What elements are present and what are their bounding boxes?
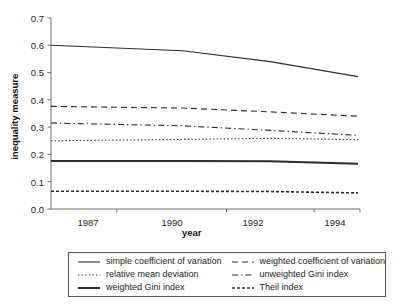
series-line	[51, 138, 358, 140]
series-line	[51, 45, 358, 76]
legend-label: simple coefficient of variation	[106, 257, 221, 266]
chart-legend: simple coefficient of variation weighted…	[68, 252, 386, 297]
legend-label: unweighted Gini index	[260, 270, 349, 279]
plot-area: 0.7 0.6 0.5 0.4 0.3 0.2 0.1 0.0 1987 199…	[0, 0, 406, 240]
legend-item-weighted-gini-index: weighted Gini index	[69, 283, 223, 293]
xtick-label: 1994	[313, 218, 357, 228]
legend-swatch-solid	[77, 257, 101, 267]
ytick-label: 0.6	[14, 41, 44, 51]
xtick-label: 1992	[231, 218, 275, 228]
series-lines	[51, 45, 358, 193]
legend-label: relative mean deviation	[106, 270, 199, 279]
series-line	[51, 106, 358, 116]
legend-swatch-dashed	[231, 257, 255, 267]
legend-label: weighted coefficient of variation	[260, 257, 385, 266]
chart-figure: 0.7 0.6 0.5 0.4 0.3 0.2 0.1 0.0 1987 199…	[0, 0, 406, 305]
series-line	[51, 161, 358, 164]
xtick-label: 1987	[66, 218, 110, 228]
ytick-label: 0.7	[14, 14, 44, 24]
legend-swatch-dashdot	[231, 270, 255, 280]
legend-label: Theil index	[260, 283, 304, 292]
series-line	[51, 123, 358, 135]
legend-item-unweighted-gini-index: unweighted Gini index	[223, 270, 385, 280]
legend-item-simple-coefficient-of-variation: simple coefficient of variation	[69, 257, 223, 267]
series-line	[51, 191, 358, 193]
legend-label: weighted Gini index	[106, 283, 185, 292]
legend-swatch-shortdash	[231, 283, 255, 293]
line-chart-canvas	[0, 0, 406, 240]
x-axis-title: year	[182, 228, 202, 238]
legend-swatch-solid-thick	[77, 283, 101, 293]
legend-swatch-dotted	[77, 270, 101, 280]
ytick-label: 0.0	[14, 205, 44, 215]
legend-item-theil-index: Theil index	[223, 283, 385, 293]
legend-item-relative-mean-deviation: relative mean deviation	[69, 270, 223, 280]
legend-item-weighted-coefficient-of-variation: weighted coefficient of variation	[223, 257, 385, 267]
y-axis-title: inequality measure	[10, 52, 20, 182]
